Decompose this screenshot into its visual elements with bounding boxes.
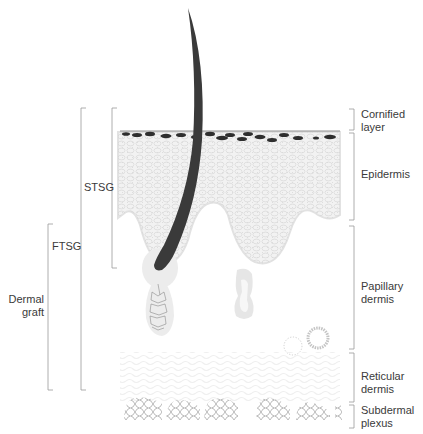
vessel-circle [308,328,328,348]
skin-diagram [0,0,423,434]
reticular-dermis-texture [120,352,340,402]
label-subdermal-plexus: Subdermal plexus [361,404,414,430]
epidermis-layer [118,132,340,263]
label-ftsg: FTSG [52,240,81,253]
label-reticular-dermis: Reticular dermis [361,370,404,396]
label-epidermis: Epidermis [361,168,410,181]
label-dermal-graft: Dermal graft [0,293,44,319]
label-cornified-layer: Cornified layer [361,108,405,134]
label-papillary-dermis: Papillary dermis [361,280,403,306]
sweat-gland [234,269,253,319]
right-brackets [349,109,354,428]
label-stsg: STSG [84,181,114,194]
